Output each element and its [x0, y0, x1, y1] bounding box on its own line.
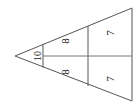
segment-label-right-upper: 7 — [105, 30, 116, 36]
segment-label-mid-lower: 8 — [60, 69, 71, 75]
segment-label-right-lower: 7 — [105, 76, 116, 82]
segment-label-apex: 10 — [32, 51, 43, 61]
triangle-diagram: 10 8 8 7 7 — [0, 0, 140, 106]
segment-label-mid-upper: 8 — [60, 38, 71, 44]
triangle-outline-svg — [0, 0, 140, 106]
